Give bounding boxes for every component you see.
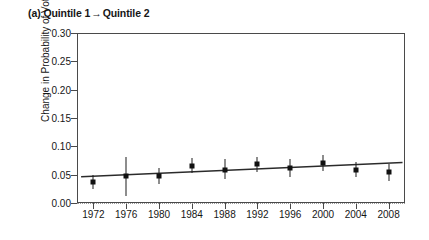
y-axis-tick-label: 0.00 <box>37 198 71 209</box>
y-axis-tick-label: 0.15 <box>37 113 71 124</box>
figure-panel: (a) Quintile 1→Quintile 2 Change in Prob… <box>0 0 429 240</box>
y-axis-tick-label: 0.30 <box>37 28 71 39</box>
arrow-icon: → <box>90 7 102 19</box>
data-point <box>189 163 194 168</box>
data-point <box>124 174 129 179</box>
zero-reference-line <box>77 203 405 205</box>
data-point <box>386 170 391 175</box>
x-axis-tick-label: 2008 <box>367 209 411 220</box>
data-point <box>255 162 260 167</box>
y-axis-tick-label: 0.05 <box>37 169 71 180</box>
data-point <box>321 161 326 166</box>
data-point <box>353 167 358 172</box>
panel-to-label: Quintile 2 <box>103 7 150 19</box>
data-point <box>222 167 227 172</box>
data-point <box>157 173 162 178</box>
data-point <box>91 180 96 185</box>
y-axis-tick-label: 0.20 <box>37 84 71 95</box>
data-point <box>288 166 293 171</box>
y-axis-tick-label: 0.10 <box>37 141 71 152</box>
y-axis-tick-label: 0.25 <box>37 56 71 67</box>
